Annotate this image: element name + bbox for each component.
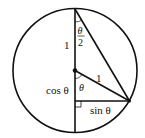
label-slant-radius: 1 <box>96 72 102 84</box>
half-angle-diagram: 1 θ 2 1 θ cos θ sin θ <box>0 0 145 138</box>
label-half-angle-denominator: 2 <box>78 37 83 48</box>
label-cos: cos θ <box>46 84 69 96</box>
label-top-radius: 1 <box>64 39 70 51</box>
right-angle-marker <box>75 101 81 107</box>
circle-point-dot <box>128 100 131 103</box>
half-angle-arc <box>75 20 82 22</box>
center-dot <box>73 68 78 73</box>
label-center-angle: θ <box>79 82 84 93</box>
label-half-angle-numerator: θ <box>78 25 83 36</box>
center-angle-arc <box>75 74 82 78</box>
label-sin: sin θ <box>90 104 111 116</box>
